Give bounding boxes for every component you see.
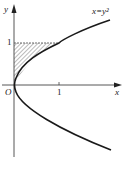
origin-label: O: [5, 88, 12, 97]
y-axis-label: y: [4, 5, 8, 14]
plot-canvas: [0, 0, 124, 176]
x-tick-label-1: 1: [57, 88, 62, 97]
y-axis-arrow-icon: [12, 4, 17, 13]
shaded-region: [14, 43, 59, 85]
curve-label: x=y²: [92, 7, 109, 16]
y-tick-label-1: 1: [7, 38, 12, 47]
x-axis-label: x: [115, 88, 119, 97]
